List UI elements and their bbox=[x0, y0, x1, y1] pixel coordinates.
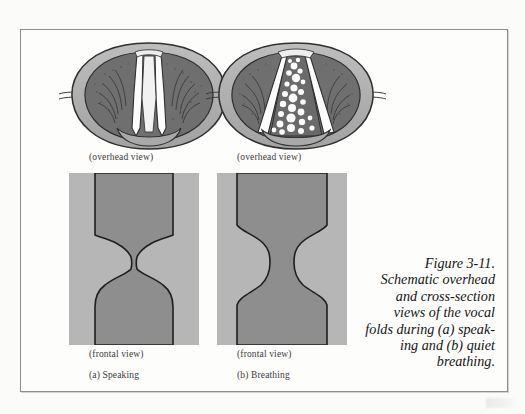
figure-plate: (overhead view) (overhead view) (frontal… bbox=[21, 30, 509, 393]
glottis-closed-slit bbox=[142, 56, 156, 132]
figure-caption-line: breathing. bbox=[309, 353, 495, 369]
scan-artifact-smudge bbox=[486, 398, 516, 408]
figure-caption: Figure 3-11. Schematic overhead and cros… bbox=[309, 255, 495, 370]
diagram-overhead-view-breathing bbox=[206, 40, 386, 150]
label-frontal-view-breathing: (frontal view) bbox=[237, 349, 292, 359]
figure-caption-line: and cross-section bbox=[309, 288, 495, 304]
figure-page-frame: (overhead view) (overhead view) (frontal… bbox=[20, 29, 508, 392]
figure-caption-line: folds during (a) speak- bbox=[309, 321, 495, 337]
figure-caption-line: Schematic overhead bbox=[309, 271, 495, 287]
label-part-b-breathing: (b) Breathing bbox=[237, 370, 290, 380]
figure-caption-line: views of the vocal bbox=[309, 304, 495, 320]
figure-caption-line: ing and (b) quiet bbox=[309, 337, 495, 353]
diagram-frontal-view-speaking bbox=[69, 173, 199, 345]
label-part-a-speaking: (a) Speaking bbox=[89, 370, 139, 380]
label-overhead-view-breathing: (overhead view) bbox=[237, 152, 301, 162]
label-overhead-view-speaking: (overhead view) bbox=[89, 152, 153, 162]
label-frontal-view-speaking: (frontal view) bbox=[89, 349, 144, 359]
figure-caption-line: Figure 3-11. bbox=[309, 255, 495, 271]
